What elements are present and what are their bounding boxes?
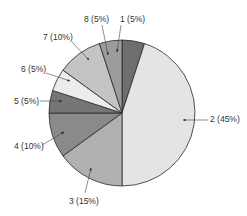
slice-label-4: 4 (10%)	[14, 141, 44, 151]
pie-slices	[49, 40, 195, 186]
pie-chart: 1 (5%)2 (45%)3 (15%)4 (10%)5 (5%)6 (5%)7…	[0, 0, 247, 216]
slice-label-7: 7 (10%)	[43, 32, 73, 42]
slice-label-3: 3 (15%)	[69, 196, 99, 206]
slice-label-6: 6 (5%)	[21, 64, 46, 74]
slice-label-1: 1 (5%)	[120, 14, 145, 24]
slice-label-8: 8 (5%)	[84, 14, 109, 24]
slice-label-2: 2 (45%)	[210, 114, 240, 124]
slice-label-5: 5 (5%)	[14, 96, 39, 106]
